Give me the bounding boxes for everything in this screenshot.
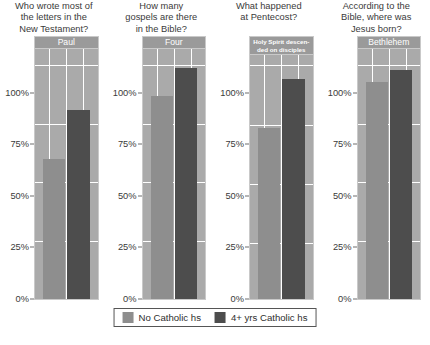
y-tick-label-75: 75% bbox=[333, 139, 352, 149]
bar-no-catholic-hs bbox=[258, 128, 280, 299]
panel-title: How many gospels are there in the Bible? bbox=[108, 0, 216, 36]
bar-4yrs-catholic-hs bbox=[67, 110, 89, 299]
bar-4yrs-catholic-hs bbox=[175, 68, 197, 299]
legend-swatch-icon bbox=[215, 312, 226, 323]
panel-answer-strip: Paul bbox=[34, 36, 99, 49]
legend-label: 4+ yrs Catholic hs bbox=[231, 312, 308, 323]
y-tick-label-50: 50% bbox=[10, 191, 29, 201]
plot-area bbox=[249, 55, 314, 300]
y-tick-label-25: 25% bbox=[225, 242, 244, 252]
bar-group bbox=[250, 55, 313, 299]
panel-what-happened-pentecost: What happened at Pentecost? 100% 75% 50%… bbox=[215, 0, 323, 300]
panel-how-many-gospels: How many gospels are there in the Bible?… bbox=[108, 0, 216, 300]
bar-no-catholic-hs bbox=[43, 159, 65, 299]
bar-4yrs-catholic-hs bbox=[390, 70, 412, 299]
panel-who-wrote-letters: Who wrote most of the letters in the New… bbox=[0, 0, 108, 300]
bar-no-catholic-hs bbox=[366, 82, 388, 299]
bar-group bbox=[358, 49, 421, 299]
y-tick-label-100: 100% bbox=[113, 88, 137, 98]
y-axis: 100% 75% 50% 25% 0% bbox=[108, 36, 142, 300]
bar-group bbox=[143, 49, 206, 299]
y-tick-label-50: 50% bbox=[225, 191, 244, 201]
y-tick-label-100: 100% bbox=[5, 88, 29, 98]
legend-area: No Catholic hs 4+ yrs Catholic hs bbox=[0, 300, 430, 345]
panel-answer-strip: Holy Spirit descen- ded on disciples bbox=[249, 36, 314, 55]
legend-item-4yrs-catholic-hs: 4+ yrs Catholic hs bbox=[215, 312, 308, 323]
y-tick-label-25: 25% bbox=[10, 242, 29, 252]
y-tick-label-100: 100% bbox=[328, 88, 352, 98]
plot-area bbox=[142, 49, 207, 300]
y-tick-label-25: 25% bbox=[333, 242, 352, 252]
panel-answer-strip: Four bbox=[142, 36, 207, 49]
panel-row: Who wrote most of the letters in the New… bbox=[0, 0, 430, 300]
bar-no-catholic-hs bbox=[151, 96, 173, 299]
panel-where-was-jesus-born: According to the Bible, where was Jesus … bbox=[323, 0, 430, 300]
bar-4yrs-catholic-hs bbox=[282, 79, 304, 299]
panel-title: According to the Bible, where was Jesus … bbox=[323, 0, 430, 36]
panel-title: Who wrote most of the letters in the New… bbox=[0, 0, 108, 36]
panel-body: 100% 75% 50% 25% 0% Four bbox=[108, 36, 216, 300]
y-tick-label-75: 75% bbox=[10, 139, 29, 149]
panel-answer-strip: Bethlehem bbox=[357, 36, 422, 49]
y-axis: 100% 75% 50% 25% 0% bbox=[323, 36, 357, 300]
y-tick-label-100: 100% bbox=[220, 88, 244, 98]
y-tick-label-75: 75% bbox=[118, 139, 137, 149]
y-axis: 100% 75% 50% 25% 0% bbox=[0, 36, 34, 300]
legend: No Catholic hs 4+ yrs Catholic hs bbox=[114, 308, 317, 327]
legend-item-no-catholic-hs: No Catholic hs bbox=[123, 312, 201, 323]
y-tick-label-25: 25% bbox=[118, 242, 137, 252]
bar-group bbox=[35, 49, 98, 299]
y-axis: 100% 75% 50% 25% 0% bbox=[215, 36, 249, 300]
panel-body: 100% 75% 50% 25% 0% Holy Spirit descen- … bbox=[215, 36, 323, 300]
plot-wrapper: Four bbox=[142, 36, 207, 300]
legend-swatch-icon bbox=[123, 312, 134, 323]
y-tick-label-50: 50% bbox=[118, 191, 137, 201]
panel-title: What happened at Pentecost? bbox=[215, 0, 323, 36]
plot-wrapper: Holy Spirit descen- ded on disciples bbox=[249, 36, 314, 300]
legend-label: No Catholic hs bbox=[139, 312, 201, 323]
y-tick-label-50: 50% bbox=[333, 191, 352, 201]
plot-area bbox=[34, 49, 99, 300]
plot-area bbox=[357, 49, 422, 300]
plot-wrapper: Paul bbox=[34, 36, 99, 300]
panel-body: 100% 75% 50% 25% 0% Paul bbox=[0, 36, 108, 300]
bar-chart-figure: Who wrote most of the letters in the New… bbox=[0, 0, 430, 345]
panel-body: 100% 75% 50% 25% 0% Bethlehem bbox=[323, 36, 430, 300]
plot-wrapper: Bethlehem bbox=[357, 36, 422, 300]
y-tick-label-75: 75% bbox=[225, 139, 244, 149]
